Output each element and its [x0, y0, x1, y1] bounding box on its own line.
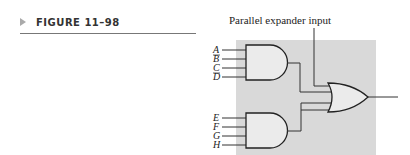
and-gate-2-labels: E F G H [212, 112, 221, 150]
svg-text:D: D [212, 71, 221, 82]
logic-diagram: Parallel expander input A B C D E F G H [0, 0, 410, 155]
and-gate-1-labels: A B C D [212, 44, 221, 82]
svg-text:H: H [212, 139, 221, 150]
and-gate-bottom [246, 113, 288, 148]
parallel-expander-label: Parallel expander input [229, 14, 331, 26]
and-gate-top [246, 45, 288, 80]
